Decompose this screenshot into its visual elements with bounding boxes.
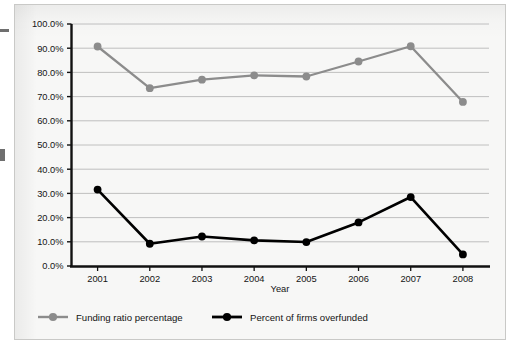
data-point xyxy=(459,250,467,258)
data-point xyxy=(146,84,154,92)
x-axis-tick-label: 2004 xyxy=(244,274,265,284)
x-axis-tick-label: 2001 xyxy=(87,274,108,284)
y-axis-tick-label: 70.0% xyxy=(37,92,63,102)
y-axis-tick-labels: 100.0%90.0%80.0%70.0%60.0%50.0%40.0%30.0… xyxy=(32,19,64,271)
x-axis-tick-label: 2006 xyxy=(348,274,369,284)
data-point xyxy=(146,240,154,248)
chart-page: 100.0%90.0%80.0%70.0%60.0%50.0%40.0%30.0… xyxy=(0,0,513,343)
y-axis-tick-label: 80.0% xyxy=(37,68,63,78)
series-line xyxy=(98,46,463,102)
y-axis-tick-label: 0.0% xyxy=(42,261,63,271)
y-axis-tick-label: 20.0% xyxy=(37,213,63,223)
y-axis-tick-label: 30.0% xyxy=(37,189,63,199)
legend-marker-icon xyxy=(223,313,231,321)
data-point xyxy=(250,71,258,79)
data-point xyxy=(94,186,102,194)
legend-item: Funding ratio percentage xyxy=(38,312,183,323)
data-point xyxy=(407,42,415,50)
y-axis-tick-label: 90.0% xyxy=(37,44,63,54)
x-axis-tick-label: 2005 xyxy=(296,274,317,284)
legend-marker-icon xyxy=(49,313,57,321)
legend-label: Percent of firms overfunded xyxy=(250,312,368,323)
data-point xyxy=(94,43,102,51)
data-point xyxy=(355,219,363,227)
chart-svg: 100.0%90.0%80.0%70.0%60.0%50.0%40.0%30.0… xyxy=(0,0,513,343)
data-point xyxy=(407,193,415,201)
x-axis-tick-label: 2002 xyxy=(139,274,160,284)
x-axis-tick-labels: 20012002200320042005200620072008 xyxy=(87,274,473,284)
data-point xyxy=(302,73,310,81)
y-axis-tick-label: 40.0% xyxy=(37,165,63,175)
data-point xyxy=(250,236,258,244)
legend: Funding ratio percentagePercent of firms… xyxy=(38,312,368,323)
x-axis-tick-label: 2003 xyxy=(192,274,213,284)
y-axis-tick-label: 50.0% xyxy=(37,140,63,150)
series-percent-of-firms-overfunded xyxy=(94,186,467,259)
line-chart: 100.0%90.0%80.0%70.0%60.0%50.0%40.0%30.0… xyxy=(0,0,513,343)
data-point xyxy=(355,58,363,66)
y-axis-tick-label: 10.0% xyxy=(37,237,63,247)
data-point xyxy=(198,76,206,84)
legend-item: Percent of firms overfunded xyxy=(212,312,368,323)
gridlines xyxy=(72,24,490,242)
data-point xyxy=(459,98,467,106)
x-axis-title: Year xyxy=(271,284,290,294)
x-axis-tick-label: 2007 xyxy=(400,274,421,284)
data-point xyxy=(198,233,206,241)
y-axis-tick-label: 100.0% xyxy=(32,19,64,29)
x-axis-tick-label: 2008 xyxy=(453,274,474,284)
y-axis-tick-label: 60.0% xyxy=(37,116,63,126)
data-point xyxy=(302,238,310,246)
legend-label: Funding ratio percentage xyxy=(76,312,183,323)
